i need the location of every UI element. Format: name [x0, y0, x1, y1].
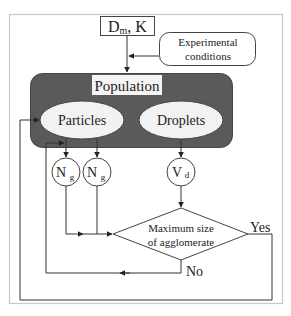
svg-text:d: d [185, 170, 190, 180]
population-title: Population [94, 78, 160, 94]
ng2-sub: g [101, 172, 106, 182]
droplets-node: Droplets [139, 101, 223, 139]
svg-text:N: N [87, 165, 97, 180]
ng1-sub: g [70, 172, 75, 182]
droplets-label: Droplets [157, 113, 205, 128]
dm-k-rest: , K [127, 18, 147, 35]
ng-node-2: N g [83, 158, 111, 186]
vd-sub: d [185, 170, 190, 180]
ng2-main: N [87, 165, 97, 180]
flowchart-diagram: Dm, K Experimental conditions Population… [0, 0, 291, 316]
vd-main: V [172, 165, 182, 180]
experimental-conditions-box: Experimental conditions [160, 33, 256, 66]
decision-line2: of agglomerate [148, 236, 214, 248]
ng1-main: N [56, 165, 66, 180]
decision-diamond: Maximum size of agglomerate [113, 208, 248, 260]
particles-node: Particles [40, 101, 124, 139]
vd-node: V d [167, 158, 195, 186]
experimental-conditions-line2: conditions [185, 50, 231, 62]
particles-label: Particles [58, 113, 106, 128]
dm-k-main: D [108, 18, 120, 35]
svg-text:g: g [101, 172, 106, 182]
dm-k-box: Dm, K [101, 17, 155, 37]
ng-node-1: N g [52, 158, 80, 186]
svg-text:N: N [56, 165, 66, 180]
svg-text:Dm, K: Dm, K [108, 18, 147, 36]
no-label: No [186, 264, 203, 279]
svg-text:V: V [172, 165, 182, 180]
svg-text:g: g [70, 172, 75, 182]
yes-label: Yes [250, 220, 270, 235]
experimental-conditions-line1: Experimental [178, 36, 237, 48]
arrow-ng2-to-decision [97, 186, 112, 234]
decision-line1: Maximum size [148, 222, 214, 234]
arrow-ng1-to-decision [66, 186, 83, 234]
